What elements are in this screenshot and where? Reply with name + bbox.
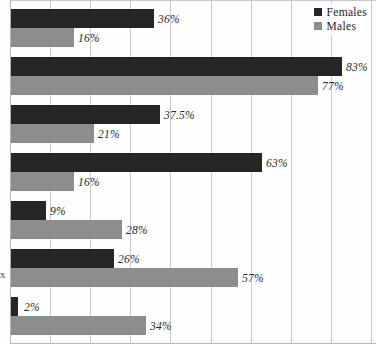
legend-item-males[interactable]: Males bbox=[314, 19, 367, 32]
bar-row: 28% bbox=[0, 220, 376, 239]
bar-males-5[interactable] bbox=[10, 220, 122, 239]
bar-row: 26% bbox=[0, 249, 376, 268]
bar-label-females-7: 2% bbox=[24, 301, 40, 313]
bar-label-males-5: 28% bbox=[126, 224, 148, 236]
bar-females-7[interactable] bbox=[10, 297, 18, 316]
bar-males-6[interactable] bbox=[10, 268, 238, 287]
bar-males-1[interactable] bbox=[10, 28, 74, 47]
bar-row: 63% bbox=[0, 153, 376, 172]
bar-label-males-4: 16% bbox=[78, 176, 100, 188]
clipped-category-label: x bbox=[0, 268, 6, 280]
bar-males-3[interactable] bbox=[10, 124, 94, 143]
bar-females-3[interactable] bbox=[10, 105, 160, 124]
bar-label-males-7: 34% bbox=[150, 320, 172, 332]
legend-label-males: Males bbox=[327, 20, 357, 32]
bar-label-females-2: 83% bbox=[346, 61, 368, 73]
bar-row: 16% bbox=[0, 172, 376, 191]
bar-row: 21% bbox=[0, 124, 376, 143]
bar-label-females-6: 26% bbox=[118, 253, 140, 265]
bar-males-2[interactable] bbox=[10, 76, 318, 95]
bar-row: 9% bbox=[0, 201, 376, 220]
bar-label-females-3: 37.5% bbox=[164, 109, 195, 121]
bar-label-males-3: 21% bbox=[98, 128, 120, 140]
bar-females-1[interactable] bbox=[10, 9, 154, 28]
legend-swatch-males-icon bbox=[314, 22, 322, 30]
bar-label-males-1: 16% bbox=[78, 32, 100, 44]
y-axis-line bbox=[10, 0, 11, 344]
bar-row: 34% bbox=[0, 316, 376, 335]
bar-label-females-5: 9% bbox=[50, 205, 66, 217]
bar-row: 83% bbox=[0, 57, 376, 76]
bar-row: 37.5% bbox=[0, 105, 376, 124]
legend-label-females: Females bbox=[327, 6, 367, 18]
bar-row: 77% bbox=[0, 76, 376, 95]
legend-swatch-females-icon bbox=[314, 8, 322, 16]
bar-females-6[interactable] bbox=[10, 249, 114, 268]
bar-label-males-6: 57% bbox=[242, 272, 264, 284]
bar-label-females-4: 63% bbox=[266, 157, 288, 169]
bar-label-females-1: 36% bbox=[158, 13, 180, 25]
bar-row: 2% bbox=[0, 297, 376, 316]
bar-males-7[interactable] bbox=[10, 316, 146, 335]
bar-males-4[interactable] bbox=[10, 172, 74, 191]
bar-females-4[interactable] bbox=[10, 153, 262, 172]
bar-chart: 36% 16% 83% 77% 37.5% 21% 63% 16% 9% 28% bbox=[0, 0, 376, 344]
bar-females-5[interactable] bbox=[10, 201, 46, 220]
bar-row: 57% bbox=[0, 268, 376, 287]
bar-label-males-2: 77% bbox=[322, 80, 344, 92]
chart-frame-top bbox=[10, 0, 376, 1]
legend-item-females[interactable]: Females bbox=[314, 5, 367, 18]
bar-females-2[interactable] bbox=[10, 57, 342, 76]
chart-legend: Females Males bbox=[311, 4, 369, 35]
